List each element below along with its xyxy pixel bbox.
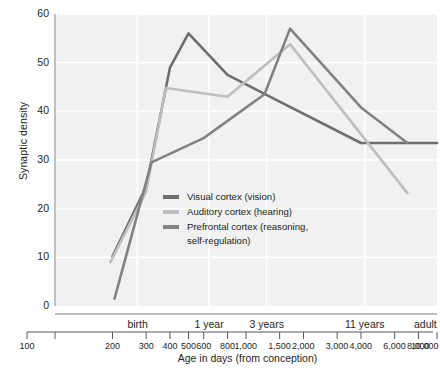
day-axis-tick-label: 4,000 [349,341,372,351]
day-axis-tick-label: 200 [105,341,120,351]
y-axis-tick-label: 40 [25,104,49,116]
y-axis-tick-label: 30 [25,153,49,165]
day-axis-tick-label: 6,000 [383,341,406,351]
y-axis-tick-label: 50 [25,56,49,68]
y-axis-tick-label: 0 [25,299,49,311]
day-axis-tick-label: 400 [162,341,177,351]
chart-legend: Visual cortex (vision)Auditory cortex (h… [163,190,308,249]
day-axis-tick-label: 1,000 [235,341,258,351]
day-axis-tick-label: 600 [196,341,211,351]
day-axis-tick-label: 800 [220,341,235,351]
legend-item: Auditory cortex (hearing) [163,205,308,219]
legend-item-label: Auditory cortex (hearing) [187,205,292,219]
legend-color-swatch [163,225,179,229]
period-tick-label: birth [127,318,147,330]
day-axis-tick-label: 1,500 [268,341,291,351]
plot-canvas [0,0,440,372]
day-axis-tick-label: 300 [139,341,154,351]
period-tick-label: 3 years [249,318,283,330]
period-tick-label: 11 years [345,318,385,330]
day-axis-tick-label: 100 [20,341,35,351]
legend-item: Prefrontal cortex (reasoning, self-regul… [163,220,308,247]
legend-item: Visual cortex (vision) [163,190,308,204]
y-axis-tick-label: 20 [25,202,49,214]
legend-item-label: Visual cortex (vision) [187,190,275,204]
y-axis-tick-label: 10 [25,250,49,262]
period-tick-label: adult [414,318,437,330]
legend-color-swatch [163,195,179,199]
period-tick-label: 1 year [194,318,223,330]
day-axis-tick-label: 2,000 [292,341,315,351]
day-axis-tick-label: 500 [181,341,196,351]
legend-item-label: Prefrontal cortex (reasoning, self-regul… [187,220,308,247]
y-axis-tick-label: 60 [25,7,49,19]
legend-color-swatch [163,210,179,214]
day-axis-tick-label: 3,000 [326,341,349,351]
day-axis-tick-label: 10,000 [411,341,439,351]
synaptic-density-chart: Synaptic density Age in days (from conce… [0,0,440,372]
